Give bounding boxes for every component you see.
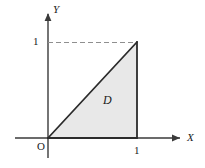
y-axis-label: Y xyxy=(53,4,59,15)
x-axis-arrowhead xyxy=(172,135,180,142)
origin-label: O xyxy=(37,141,45,152)
x-tick-label-1: 1 xyxy=(134,145,140,156)
y-tick-label-1: 1 xyxy=(33,36,39,47)
region-label-d: D xyxy=(103,94,112,106)
coordinate-plot xyxy=(0,0,205,168)
figure-canvas: Y X O 1 1 D xyxy=(0,0,205,168)
y-axis-arrowhead xyxy=(45,13,52,21)
x-axis-label: X xyxy=(187,132,194,143)
